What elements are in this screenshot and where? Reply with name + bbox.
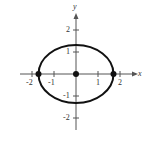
- y-tick-label: -2: [63, 114, 70, 122]
- y-axis-label: y: [73, 3, 77, 11]
- plot-area: [0, 0, 145, 143]
- y-tick-label: 1: [66, 48, 70, 56]
- y-tick-label: -1: [63, 92, 70, 100]
- y-tick-label: 2: [66, 26, 70, 34]
- x-tick-label: -1: [48, 79, 55, 87]
- data-point: [73, 71, 79, 77]
- x-tick-label: -2: [26, 79, 33, 87]
- x-tick-label: 2: [118, 79, 122, 87]
- x-axis-label: x: [138, 70, 142, 78]
- data-point: [36, 71, 42, 77]
- y-axis-arrow-icon: [74, 13, 79, 19]
- data-point: [111, 71, 117, 77]
- x-tick-label: 1: [96, 79, 100, 87]
